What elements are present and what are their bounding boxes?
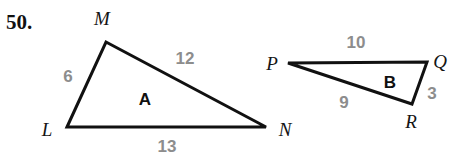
vertex-label-r: R [404, 111, 417, 132]
geometry-canvas: 50. L M N 6 12 13 A P Q R 10 9 3 B [0, 0, 474, 163]
region-label-a: A [139, 90, 151, 109]
side-length-qr: 3 [427, 84, 436, 103]
vertex-label-l: L [41, 119, 53, 140]
geometry-problem-figure: 50. L M N 6 12 13 A P Q R 10 9 3 B [0, 0, 474, 163]
side-length-pq: 10 [347, 33, 366, 52]
triangle-a-outline [67, 42, 266, 127]
vertex-label-q: Q [433, 51, 447, 72]
triangle-a-group: L M N 6 12 13 A [41, 8, 293, 156]
side-length-pr: 9 [339, 93, 348, 112]
vertex-label-n: N [278, 119, 293, 140]
side-length-mn: 12 [176, 49, 195, 68]
vertex-label-p: P [265, 53, 278, 74]
side-length-lm: 6 [63, 67, 72, 86]
vertex-label-m: M [93, 8, 111, 29]
triangle-b-group: P Q R 10 9 3 B [265, 33, 447, 132]
region-label-b: B [384, 73, 396, 92]
problem-number: 50. [6, 10, 32, 34]
side-length-ln: 13 [158, 137, 177, 156]
triangle-b-outline [288, 62, 427, 104]
